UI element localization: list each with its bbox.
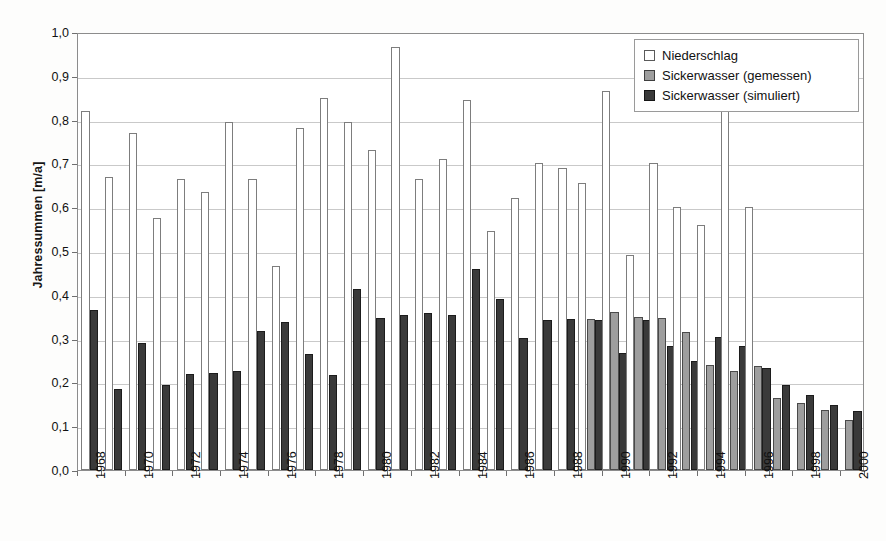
x-tick-mark (697, 471, 698, 476)
bar-sickerwasser-gemessen (587, 319, 595, 470)
bar-niederschlag (272, 266, 280, 470)
x-tick-label: 1980 (380, 451, 394, 479)
x-tick-label: 2000 (857, 451, 871, 479)
x-tick-label: 1978 (332, 451, 346, 479)
x-tick-label: 1998 (809, 451, 823, 479)
year-bar-group (558, 34, 575, 470)
x-tick-mark (745, 471, 746, 476)
bar-niederschlag (225, 122, 233, 470)
bar-sickerwasser-simuliert (114, 389, 122, 470)
bar-sickerwasser-gemessen (845, 420, 853, 470)
x-tick-mark (315, 471, 316, 476)
x-tick-label: 1970 (142, 451, 156, 479)
year-bar-group (81, 34, 98, 470)
x-tick-label: 1974 (237, 451, 251, 479)
bar-sickerwasser-simuliert (305, 354, 313, 470)
bar-sickerwasser-simuliert (496, 299, 504, 470)
x-tick-label: 1994 (714, 451, 728, 479)
bar-niederschlag (129, 133, 137, 470)
y-tick-label: 0,1 (27, 420, 69, 434)
y-tick-label: 0,4 (27, 289, 69, 303)
bar-niederschlag (602, 91, 610, 470)
bar-sickerwasser-simuliert (543, 320, 551, 470)
x-tick-mark (459, 471, 460, 476)
x-tick-mark (363, 471, 364, 476)
bar-niederschlag (673, 207, 681, 470)
year-bar-group (177, 34, 194, 470)
x-tick-label: 1968 (94, 451, 108, 479)
year-bar-group (368, 34, 385, 470)
year-bar-group (320, 34, 337, 470)
x-tick-mark (602, 471, 603, 476)
chart-legend: NiederschlagSickerwasser (gemessen)Sicke… (634, 39, 859, 112)
x-tick-mark (649, 471, 650, 476)
x-tick-mark (554, 471, 555, 476)
bar-sickerwasser-simuliert (782, 385, 790, 470)
year-bar-group (487, 34, 504, 470)
bar-niederschlag (201, 192, 209, 470)
bar-niederschlag (649, 163, 657, 470)
bar-niederschlag (177, 179, 185, 470)
bar-sickerwasser-simuliert (353, 289, 361, 470)
bar-niederschlag (320, 98, 328, 470)
bar-sickerwasser-simuliert (472, 269, 480, 470)
y-tick-label: 0,3 (27, 333, 69, 347)
bar-sickerwasser-gemessen (634, 317, 642, 470)
year-bar-group (129, 34, 146, 470)
legend-label: Sickerwasser (simuliert) (662, 88, 800, 103)
x-tick-label: 1976 (285, 451, 299, 479)
bar-sickerwasser-simuliert (376, 318, 384, 470)
bar-sickerwasser-gemessen (658, 318, 666, 470)
year-bar-group (344, 34, 361, 470)
x-tick-mark (125, 471, 126, 476)
year-bar-group (201, 34, 218, 470)
year-bar-group (535, 34, 552, 470)
bar-niederschlag (344, 122, 352, 470)
bar-sickerwasser-simuliert (400, 315, 408, 470)
year-bar-group (153, 34, 170, 470)
legend-item: Sickerwasser (gemessen) (644, 65, 851, 85)
x-tick-label: 1986 (523, 451, 537, 479)
legend-swatch-nieder-icon (644, 50, 655, 61)
bar-sickerwasser-gemessen (730, 371, 738, 470)
x-tick-mark (172, 471, 173, 476)
bar-sickerwasser-simuliert (281, 322, 289, 470)
x-tick-mark (220, 471, 221, 476)
legend-label: Sickerwasser (gemessen) (662, 68, 812, 83)
bar-niederschlag (721, 109, 729, 470)
bar-niederschlag (535, 163, 543, 470)
bar-niederschlag (626, 255, 634, 470)
year-bar-group (511, 34, 528, 470)
y-tick-label: 0,9 (27, 70, 69, 84)
bar-sickerwasser-gemessen (754, 366, 762, 470)
bar-sickerwasser-gemessen (797, 403, 805, 470)
bar-niederschlag (415, 179, 423, 470)
x-tick-label: 1972 (189, 451, 203, 479)
year-bar-group (296, 34, 313, 470)
bar-sickerwasser-simuliert (90, 310, 98, 470)
bar-sickerwasser-simuliert (162, 385, 170, 470)
bar-niederschlag (511, 198, 519, 470)
bar-sickerwasser-simuliert (830, 405, 838, 470)
bar-niederschlag (697, 225, 705, 470)
bar-niederschlag (81, 111, 89, 470)
bar-niederschlag (578, 183, 586, 470)
bar-sickerwasser-simuliert (424, 313, 432, 470)
year-bar-group (439, 34, 456, 470)
legend-item: Sickerwasser (simuliert) (644, 85, 851, 105)
year-bar-group (415, 34, 432, 470)
bar-niederschlag (248, 179, 256, 470)
year-bar-group (248, 34, 265, 470)
bar-niederschlag (153, 218, 161, 470)
bar-sickerwasser-simuliert (448, 315, 456, 470)
y-tick-label: 0,2 (27, 376, 69, 390)
y-tick-label: 0,7 (27, 157, 69, 171)
year-bar-group (272, 34, 289, 470)
bar-niederschlag (745, 207, 753, 470)
bar-niederschlag (439, 159, 447, 470)
bar-niederschlag (368, 150, 376, 470)
y-tick-label: 1,0 (27, 26, 69, 40)
y-tick-label: 0,0 (27, 464, 69, 478)
bar-niederschlag (558, 168, 566, 470)
x-tick-label: 1996 (762, 451, 776, 479)
